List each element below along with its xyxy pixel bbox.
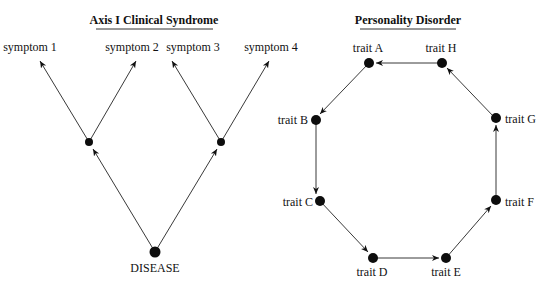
trait-c-node — [315, 196, 325, 206]
intermediate-node-left — [85, 138, 93, 146]
trait-e-node — [441, 253, 451, 263]
intermediate-node-right — [217, 138, 225, 146]
left-panel-axis-i: Axis I Clinical Syndrome symptom 1 sympt… — [3, 13, 298, 275]
edge-e-to-f — [446, 206, 491, 258]
left-panel-title: Axis I Clinical Syndrome — [90, 13, 219, 27]
trait-d-label: trait D — [357, 265, 388, 279]
trait-f-node — [491, 195, 501, 205]
edge-disease-to-right-node — [155, 149, 217, 252]
trait-h-label: trait H — [426, 41, 457, 55]
trait-g-label: trait G — [505, 112, 536, 126]
disease-node — [150, 247, 161, 258]
trait-c-label: trait C — [283, 195, 313, 209]
right-panel-title: Personality Disorder — [355, 13, 462, 27]
edge-to-symptom-4 — [221, 61, 269, 142]
edge-disease-to-left-node — [93, 149, 155, 252]
trait-a-node — [364, 58, 374, 68]
edge-to-symptom-1 — [40, 61, 89, 142]
edge-g-to-h — [447, 68, 495, 118]
edge-to-symptom-2 — [89, 61, 136, 142]
edge-a-to-b — [320, 63, 369, 114]
symptom-2-label: symptom 2 — [105, 40, 159, 54]
symptom-4-label: symptom 4 — [244, 40, 298, 54]
trait-d-node — [368, 253, 378, 263]
right-panel-personality: Personality Disorder trait A trait H tra… — [278, 13, 537, 279]
symptom-3-label: symptom 3 — [166, 40, 220, 54]
trait-b-node — [311, 115, 321, 125]
symptom-1-label: symptom 1 — [3, 40, 57, 54]
trait-e-label: trait E — [431, 265, 461, 279]
trait-f-label: trait F — [505, 195, 534, 209]
trait-b-label: trait B — [278, 113, 308, 127]
disease-label: DISEASE — [130, 261, 179, 275]
trait-a-label: trait A — [353, 41, 384, 55]
trait-h-node — [437, 58, 447, 68]
edge-to-symptom-3 — [172, 61, 221, 142]
diagram-canvas: Axis I Clinical Syndrome symptom 1 sympt… — [0, 0, 548, 288]
trait-g-node — [491, 113, 501, 123]
edge-c-to-d — [320, 201, 368, 252]
